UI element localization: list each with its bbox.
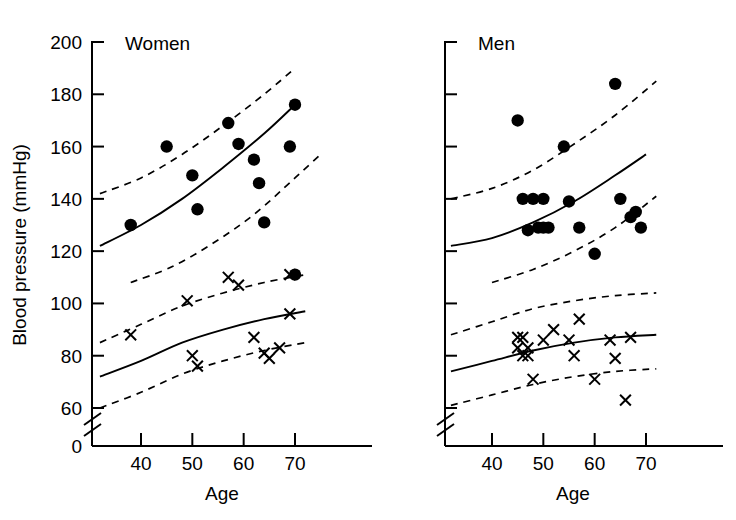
x-tick-label-50: 50 xyxy=(182,453,203,474)
data-point-diastolic xyxy=(125,329,136,340)
y-tick-label-120: 120 xyxy=(50,241,82,262)
panel-women: 40506070AgeWomen xyxy=(84,33,372,504)
data-point-systolic xyxy=(191,203,203,215)
systolic-lower-bound xyxy=(131,154,321,282)
data-point-diastolic xyxy=(264,353,275,364)
data-point-systolic xyxy=(160,140,172,152)
data-point-diastolic xyxy=(620,395,631,406)
data-point-systolic xyxy=(635,221,647,233)
y-tick-label-180: 180 xyxy=(50,84,82,105)
systolic-points xyxy=(125,99,302,281)
data-point-diastolic xyxy=(589,374,600,385)
data-point-systolic xyxy=(563,195,575,207)
data-point-systolic xyxy=(125,219,137,231)
panel-men: 40506070AgeMen xyxy=(437,33,723,504)
data-point-systolic xyxy=(542,221,554,233)
y-tick-label-160: 160 xyxy=(50,137,82,158)
data-point-diastolic xyxy=(569,350,580,361)
x-tick-label-40: 40 xyxy=(130,453,151,474)
x-tick-label-60: 60 xyxy=(233,453,254,474)
data-point-systolic xyxy=(588,248,600,260)
data-point-systolic xyxy=(511,114,523,126)
x-axis-title: Age xyxy=(556,483,590,504)
y-tick-label-60: 60 xyxy=(61,398,82,419)
data-point-systolic xyxy=(248,153,260,165)
diastolic-upper-bound xyxy=(100,275,305,343)
x-tick-label-70: 70 xyxy=(635,453,656,474)
panel-title-men: Men xyxy=(478,33,515,54)
y-axis-tick-labels: 06080100120140160180200 xyxy=(50,32,82,457)
data-point-diastolic xyxy=(528,374,539,385)
data-point-systolic xyxy=(537,193,549,205)
panel-title-women: Women xyxy=(125,33,190,54)
data-point-systolic xyxy=(573,221,585,233)
data-point-diastolic xyxy=(538,335,549,346)
y-tick-label-200: 200 xyxy=(50,32,82,53)
data-point-systolic xyxy=(232,138,244,150)
x-axis-title: Age xyxy=(205,483,239,504)
data-point-diastolic xyxy=(605,335,616,346)
data-point-systolic xyxy=(558,140,570,152)
data-point-systolic xyxy=(630,206,642,218)
data-point-diastolic xyxy=(574,314,585,325)
y-tick-label-140: 140 xyxy=(50,189,82,210)
x-tick-label-60: 60 xyxy=(584,453,605,474)
panels-group: 40506070AgeWomen40506070AgeMen xyxy=(84,33,723,504)
figure-root: Blood pressure (mmHg) 060801001201401601… xyxy=(0,0,736,520)
diastolic-points xyxy=(512,314,636,406)
data-point-systolic xyxy=(253,177,265,189)
data-point-diastolic xyxy=(249,332,260,343)
data-point-diastolic xyxy=(223,272,234,283)
y-tick-label-80: 80 xyxy=(61,346,82,367)
y-axis-title: Blood pressure (mmHg) xyxy=(9,144,30,346)
data-point-systolic xyxy=(222,117,234,129)
y-tick-label-100: 100 xyxy=(50,293,82,314)
data-point-diastolic xyxy=(610,353,621,364)
data-point-systolic xyxy=(289,99,301,111)
x-tick-label-70: 70 xyxy=(284,453,305,474)
x-tick-label-40: 40 xyxy=(481,453,502,474)
x-tick-label-50: 50 xyxy=(533,453,554,474)
data-point-systolic xyxy=(614,193,626,205)
data-point-diastolic xyxy=(187,350,198,361)
data-point-systolic xyxy=(609,78,621,90)
data-point-systolic xyxy=(284,140,296,152)
diastolic-fit-line xyxy=(451,335,656,372)
y-tick-label-0: 0 xyxy=(71,436,82,457)
data-point-diastolic xyxy=(548,324,559,335)
data-point-systolic xyxy=(186,169,198,181)
data-point-diastolic xyxy=(192,361,203,372)
systolic-upper-bound xyxy=(451,81,656,199)
blood-pressure-age-scatter-figure: Blood pressure (mmHg) 060801001201401601… xyxy=(0,0,736,520)
data-point-systolic xyxy=(258,216,270,228)
